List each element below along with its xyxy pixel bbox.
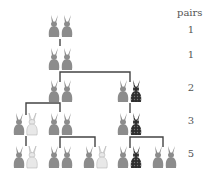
rabbit-icon	[62, 80, 73, 102]
rabbit-icon	[62, 15, 73, 37]
rabbit-icon	[118, 146, 129, 168]
rabbit-pair	[49, 146, 73, 168]
rabbit-icon	[49, 80, 60, 102]
rabbit-icon	[166, 146, 177, 168]
rabbit-icon	[49, 113, 60, 135]
rabbit-pair	[14, 146, 38, 168]
rabbit-icon	[62, 113, 73, 135]
rabbit-icon	[49, 146, 60, 168]
rabbit-icon	[118, 113, 129, 135]
rabbit-icon	[27, 113, 38, 135]
rabbit-pair	[118, 113, 142, 135]
rabbit-pair	[118, 146, 142, 168]
rabbit-icon	[49, 15, 60, 37]
rabbit-pair	[14, 113, 38, 135]
fibonacci-rabbit-diagram: pairs 1 1 2 3 5	[0, 0, 215, 177]
rabbit-pair	[49, 15, 73, 37]
rabbit-pair	[153, 146, 177, 168]
rabbit-icon	[14, 146, 25, 168]
rabbit-pair	[49, 113, 73, 135]
rabbit-icon	[97, 146, 108, 168]
pairs-count-row-4: 3	[176, 115, 206, 126]
rabbit-icon	[49, 48, 60, 70]
connector-bracket	[60, 72, 130, 82]
rabbit-pair	[84, 146, 108, 168]
rabbit-icon	[14, 113, 25, 135]
pairs-count-row-1: 1	[176, 24, 206, 35]
rabbit-icon	[62, 48, 73, 70]
connector-lines	[26, 39, 163, 148]
connector-bracket	[130, 137, 163, 148]
pairs-count-row-3: 2	[176, 82, 206, 93]
pairs-count-row-2: 1	[176, 49, 206, 60]
rabbit-icon	[131, 80, 142, 102]
rabbit-icon	[84, 146, 95, 168]
connector-bracket	[60, 137, 95, 148]
pairs-column-header: pairs	[177, 7, 202, 18]
rabbit-pair	[49, 80, 73, 102]
rabbit-icon	[131, 146, 142, 168]
pairs-count-row-5: 5	[176, 148, 206, 159]
rabbit-icon	[153, 146, 164, 168]
rabbit-pair	[118, 80, 142, 102]
rabbit-icon	[131, 113, 142, 135]
connector-bracket	[26, 103, 60, 115]
rabbit-pair	[49, 48, 73, 70]
rabbit-icon	[27, 146, 38, 168]
rabbit-icon	[118, 80, 129, 102]
rabbit-icon	[62, 146, 73, 168]
